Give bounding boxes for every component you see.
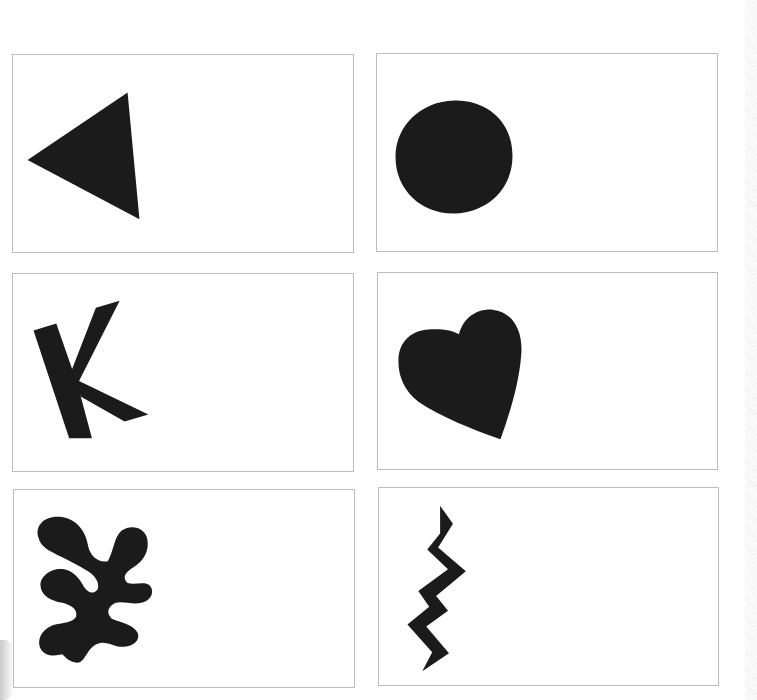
card-leaf[interactable] xyxy=(13,489,355,688)
card-circle[interactable] xyxy=(376,53,718,252)
card-letter-k[interactable] xyxy=(12,273,354,472)
page-edge-strip xyxy=(745,0,757,700)
circle-icon xyxy=(377,54,717,251)
zigzag-icon xyxy=(379,488,718,685)
letter-k-icon xyxy=(13,274,353,471)
corner-shadow xyxy=(0,640,14,700)
leaf-cutout-icon xyxy=(14,490,354,687)
card-triangle[interactable] xyxy=(12,54,354,253)
triangle-icon xyxy=(13,55,353,252)
card-heart[interactable] xyxy=(377,272,718,470)
card-zigzag[interactable] xyxy=(378,487,719,686)
heart-icon xyxy=(378,273,717,469)
